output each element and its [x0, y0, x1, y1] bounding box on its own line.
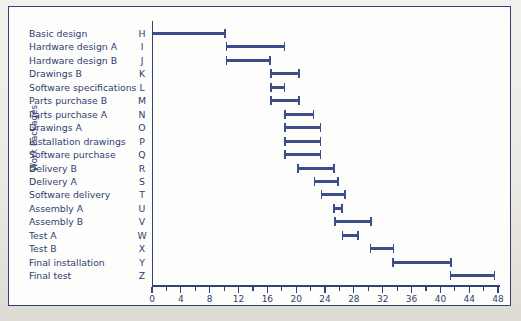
x-axis-minor-tick [252, 287, 253, 291]
x-axis-major-tick [267, 287, 268, 293]
gantt-bar [321, 193, 346, 196]
x-axis-major-tick [296, 287, 297, 293]
gantt-bar [284, 113, 314, 116]
gantt-bar [284, 126, 321, 129]
gantt-bar [334, 220, 371, 223]
x-axis-minor-tick [281, 287, 282, 291]
x-axis-major-tick [209, 287, 210, 293]
gantt-bar [342, 234, 359, 237]
x-axis-major-tick [440, 287, 441, 293]
x-axis-major-tick [497, 287, 498, 293]
gantt-bar [226, 59, 271, 62]
x-axis-major-tick [411, 287, 412, 293]
x-axis-major-tick [469, 287, 470, 293]
x-axis-major-tick [180, 287, 181, 293]
gantt-bar [270, 72, 300, 75]
x-axis-tick-label: 4 [169, 294, 193, 304]
x-axis-tick-label: 24 [313, 294, 337, 304]
x-axis-minor-tick [425, 287, 426, 291]
x-axis-minor-tick [195, 287, 196, 291]
gantt-bar [333, 207, 343, 210]
x-axis-tick-label: 32 [371, 294, 395, 304]
x-axis-major-tick [382, 287, 383, 293]
gantt-bar [270, 86, 285, 89]
gantt-bar [314, 180, 339, 183]
x-axis-minor-tick [454, 287, 455, 291]
x-axis-tick-label: 16 [255, 294, 279, 304]
gantt-bar [284, 140, 321, 143]
x-axis-minor-tick [339, 287, 340, 291]
x-axis-tick-label: 40 [428, 294, 452, 304]
x-axis-tick-label: 28 [342, 294, 366, 304]
x-axis-major-tick [151, 287, 152, 293]
gantt-bar [450, 274, 495, 277]
gantt-bar [284, 153, 321, 156]
x-axis-minor-tick [166, 287, 167, 291]
gantt-bar [297, 167, 335, 170]
gantt-bar [392, 261, 452, 264]
gantt-bar [152, 32, 226, 35]
gantt-bar [270, 99, 300, 102]
x-axis-minor-tick [483, 287, 484, 291]
x-axis-minor-tick [397, 287, 398, 291]
x-axis-tick-label: 12 [227, 294, 251, 304]
x-axis-minor-tick [310, 287, 311, 291]
x-axis-major-tick [238, 287, 239, 293]
x-axis-minor-tick [224, 287, 225, 291]
gantt-bar-layer [9, 7, 510, 305]
x-axis-minor-tick [368, 287, 369, 291]
plot-area: Work Packages Basic designHHardware desi… [9, 7, 510, 305]
x-axis-tick-label: 8 [198, 294, 222, 304]
x-axis-tick-label: 36 [400, 294, 424, 304]
x-axis-major-tick [353, 287, 354, 293]
gantt-bar [226, 45, 286, 48]
chart-frame: Work Packages Basic designHHardware desi… [8, 6, 511, 306]
x-axis-tick-label: 48 [486, 294, 510, 304]
y-axis-line [152, 21, 154, 286]
x-axis-tick-label: 0 [140, 294, 164, 304]
x-axis-tick-label: 44 [457, 294, 481, 304]
x-axis-tick-label: 20 [284, 294, 308, 304]
x-axis-major-tick [324, 287, 325, 293]
gantt-chart-figure: Work Packages Basic designHHardware desi… [0, 0, 521, 321]
gantt-bar [370, 247, 395, 250]
